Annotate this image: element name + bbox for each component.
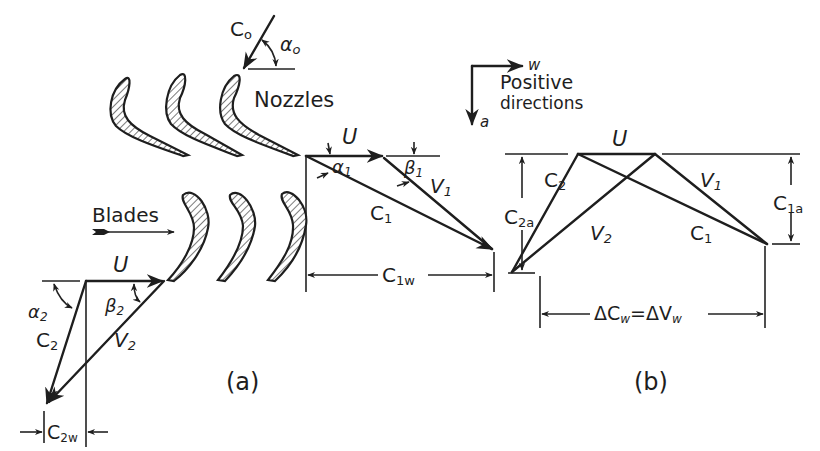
blade-direction-arrow [92,229,174,235]
svg-text:C2a: C2a [504,205,534,230]
svg-text:V2: V2 [114,328,136,353]
svg-text:C1w: C1w [382,263,415,288]
rotor-blade-1 [168,193,209,281]
svg-text:αo: αo [280,33,301,57]
c1w-label: C [382,263,396,287]
c2-label-b: C [544,168,558,192]
svg-text:C2: C2 [36,328,58,353]
svg-text:β1: β1 [403,157,423,180]
svg-text:β2: β2 [104,295,124,318]
svg-text:ΔCw=ΔVw: ΔCw=ΔVw [594,302,682,326]
u-label-top: U [342,125,357,149]
positive-label: Positive [500,71,573,93]
svg-text:C1a: C1a [773,191,803,216]
blades-label: Blades [92,203,159,227]
panel-a: Nozzles Co αo U α1 β1 V1 C [20,16,494,447]
svg-text:V2: V2 [590,221,612,246]
svg-text:V1: V1 [700,168,722,193]
c0-label: C [230,17,244,41]
positive-directions-legend: w a Positive directions [472,56,583,131]
svg-text:Co: Co [230,17,252,42]
svg-text:α2: α2 [28,301,48,324]
c0-inlet-vector: Co αo [230,16,301,69]
c1-label: C [370,201,384,225]
nozzles-label: Nozzles [254,88,334,112]
panel-b-caption: (b) [634,368,668,396]
rotor-blade-2 [218,193,255,281]
delta-vw-label: =ΔV [630,302,672,324]
u-label-b: U [612,127,627,151]
c2a-label-b: C [504,205,518,229]
panel-a-caption: (a) [226,368,259,396]
svg-text:α1: α1 [332,156,352,179]
a-axis-label: a [480,113,489,131]
rotor-blade-3 [268,192,306,281]
svg-text:C2w: C2w [47,421,78,445]
directions-label: directions [500,93,583,113]
alpha2-label: α [28,301,40,322]
c1-label-b: C [690,221,704,245]
delta-cw-label: ΔC [594,302,620,324]
blade-row [168,192,306,281]
c1a-label-b: C [773,191,787,215]
alpha1-label: α [332,156,344,177]
alpha0-label: α [280,33,293,55]
nozzle-row [110,74,298,156]
svg-text:V1: V1 [430,174,452,199]
c2w-label: C [47,421,60,443]
u-label-bottom: U [113,253,128,277]
c2-label: C [36,328,50,352]
velocity-triangle-figure: Nozzles Co αo U α1 β1 V1 C [0,0,820,451]
beta2-label: β [104,295,117,316]
svg-text:C1: C1 [690,221,712,246]
svg-text:C2: C2 [544,168,566,193]
v2-vector [512,154,655,272]
panel-b: U C2 C2a V2 V1 C1 C1a ΔCw=ΔVw (b) [504,127,803,396]
svg-text:C1: C1 [370,201,392,226]
beta1-label: β [403,157,416,178]
exit-velocity-triangle: U α2 β2 C2 V2 C2w [20,253,164,447]
inlet-velocity-triangle: U α1 β1 V1 C1 C1w [306,125,494,292]
